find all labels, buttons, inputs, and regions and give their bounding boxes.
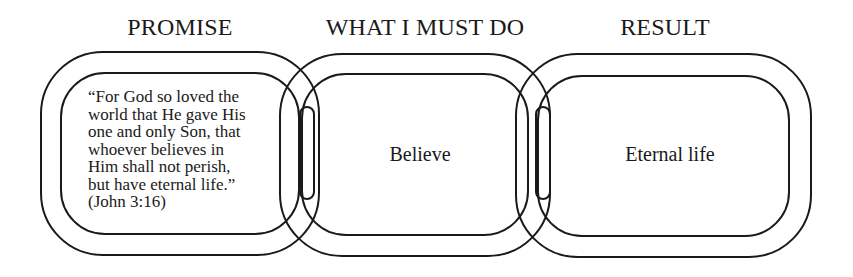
promise-quote: “For God so loved the world that He gave… xyxy=(88,88,298,211)
quote-line: “For God so loved the xyxy=(88,88,298,106)
quote-line: world that He gave His xyxy=(88,106,298,124)
label-eternal-life: Eternal life xyxy=(590,143,750,166)
quote-line: Him shall not perish, xyxy=(88,158,298,176)
label-believe: Believe xyxy=(350,143,490,166)
quote-citation: (John 3:16) xyxy=(88,193,298,211)
quote-line: but have eternal life.” xyxy=(88,176,298,194)
quote-line: one and only Son, that xyxy=(88,123,298,141)
quote-line: whoever believes in xyxy=(88,141,298,159)
